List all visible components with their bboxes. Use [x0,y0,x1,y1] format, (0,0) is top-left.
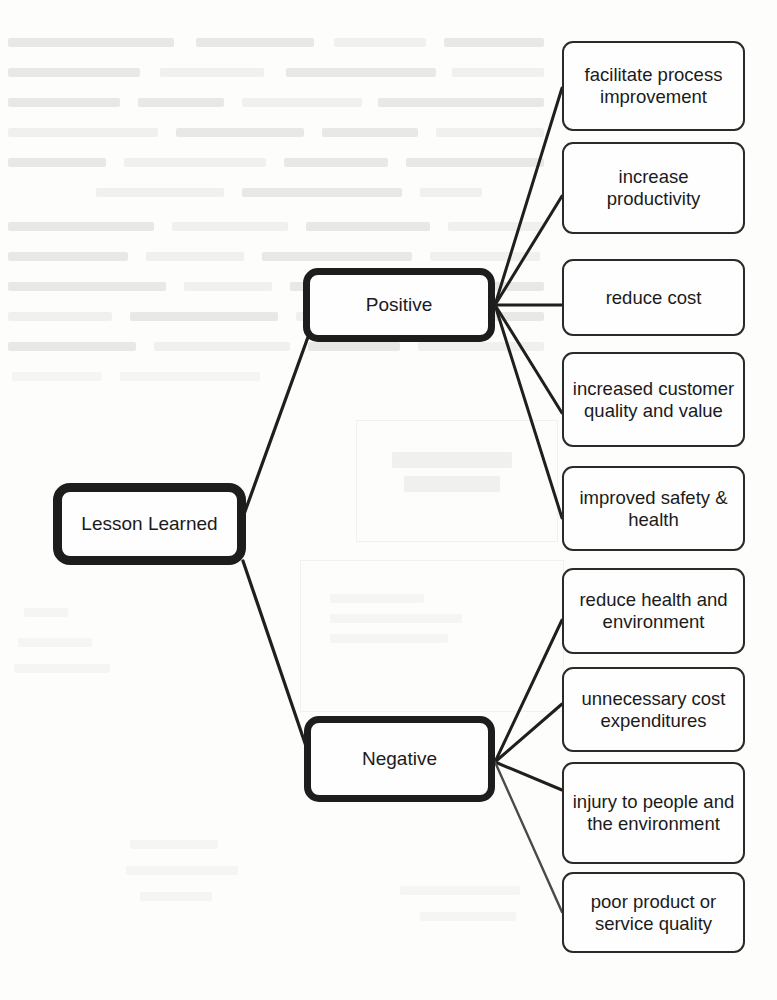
edge-positive-to-increased-customer-quality-and-value [495,305,562,413]
node-increased-customer-quality-and-value-label: increased customer quality and value [571,378,736,422]
edge-negative-to-injury-to-people-and-the-environment [495,762,562,790]
node-reduce-health-and-environment-label: reduce health and environment [571,589,736,633]
node-unnecessary-cost-expenditures-label: unnecessary cost expenditures [571,688,736,732]
edge-negative-to-unnecessary-cost-expenditures [495,704,562,762]
node-reduce-cost-label: reduce cost [571,287,736,309]
node-negative[interactable]: Negative [304,716,495,802]
node-poor-product-or-service-quality[interactable]: poor product or service quality [562,872,745,953]
edge-positive-to-improved-safety-and-health [495,305,562,518]
edge-root-to-positive [243,337,308,517]
node-improved-safety-and-health-label: improved safety & health [571,487,736,531]
edge-negative-to-poor-product-or-service-quality [495,762,562,912]
mind-map-diagram: Lesson Learned Positive Negative facilit… [0,0,777,1000]
edge-positive-to-increase-productivity [495,196,562,305]
node-lesson-learned[interactable]: Lesson Learned [53,483,246,565]
edge-positive-to-facilitate-process-improvement [495,88,562,305]
edge-root-to-negative [243,561,308,752]
node-injury-to-people-and-the-environment-label: injury to people and the environment [571,791,736,835]
node-improved-safety-and-health[interactable]: improved safety & health [562,466,745,551]
node-facilitate-process-improvement-label: facilitate process improvement [571,64,736,108]
node-lesson-learned-label: Lesson Learned [62,513,237,535]
node-positive[interactable]: Positive [303,268,495,342]
node-positive-label: Positive [310,294,488,316]
node-injury-to-people-and-the-environment[interactable]: injury to people and the environment [562,762,745,864]
node-increase-productivity[interactable]: increase productivity [562,142,745,234]
node-unnecessary-cost-expenditures[interactable]: unnecessary cost expenditures [562,667,745,752]
node-increased-customer-quality-and-value[interactable]: increased customer quality and value [562,352,745,447]
node-reduce-health-and-environment[interactable]: reduce health and environment [562,568,745,654]
edge-negative-to-reduce-health-and-environment [495,620,562,762]
node-poor-product-or-service-quality-label: poor product or service quality [571,891,736,935]
node-reduce-cost[interactable]: reduce cost [562,259,745,336]
node-facilitate-process-improvement[interactable]: facilitate process improvement [562,41,745,131]
node-increase-productivity-label: increase productivity [571,166,736,210]
node-negative-label: Negative [311,748,488,770]
